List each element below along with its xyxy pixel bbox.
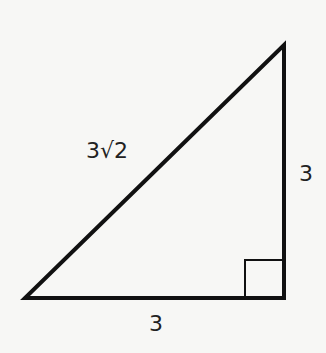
- horizontal-leg-label: 3: [149, 313, 163, 335]
- vertical-leg-label: 3: [299, 163, 313, 185]
- right-angle-marker: [245, 260, 284, 298]
- triangle-figure: [0, 0, 326, 353]
- hypotenuse-label: 3√2: [86, 140, 128, 162]
